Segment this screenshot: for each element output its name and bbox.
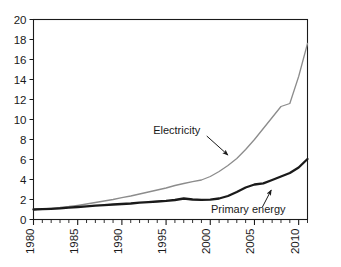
x-tick-label: 1985: [68, 229, 80, 255]
x-tick-label: 2005: [244, 229, 256, 255]
y-tick-label: 2: [20, 194, 26, 206]
y-axis-ticks: [30, 20, 34, 220]
x-axis-tick-labels: 1980198519901995200020052010: [24, 229, 301, 255]
line-chart: 02468101214161820 1980198519901995200020…: [0, 0, 341, 267]
electricity-annotation-label: Electricity: [153, 124, 201, 136]
y-tick-label: 14: [14, 74, 27, 86]
y-tick-label: 20: [14, 14, 27, 26]
y-tick-label: 16: [14, 54, 27, 66]
x-tick-label: 1990: [112, 229, 124, 255]
y-tick-label: 8: [20, 134, 26, 146]
chart-canvas: 02468101214161820 1980198519901995200020…: [0, 0, 341, 267]
y-axis-tick-labels: 02468101214161820: [14, 14, 27, 226]
y-tick-label: 10: [14, 114, 27, 126]
plot-area-border: [34, 20, 308, 220]
y-tick-label: 4: [20, 174, 27, 186]
x-tick-label: 2010: [289, 229, 301, 255]
x-tick-label: 1980: [24, 229, 36, 255]
y-tick-label: 18: [14, 34, 27, 46]
x-tick-label: 1995: [156, 229, 168, 255]
primary-energy-annotation-label: Primary energy: [211, 203, 286, 215]
y-tick-label: 0: [20, 214, 26, 226]
x-tick-label: 2000: [200, 229, 212, 255]
x-axis-major-ticks: [34, 220, 299, 226]
y-tick-label: 12: [14, 94, 27, 106]
y-tick-label: 6: [20, 154, 26, 166]
